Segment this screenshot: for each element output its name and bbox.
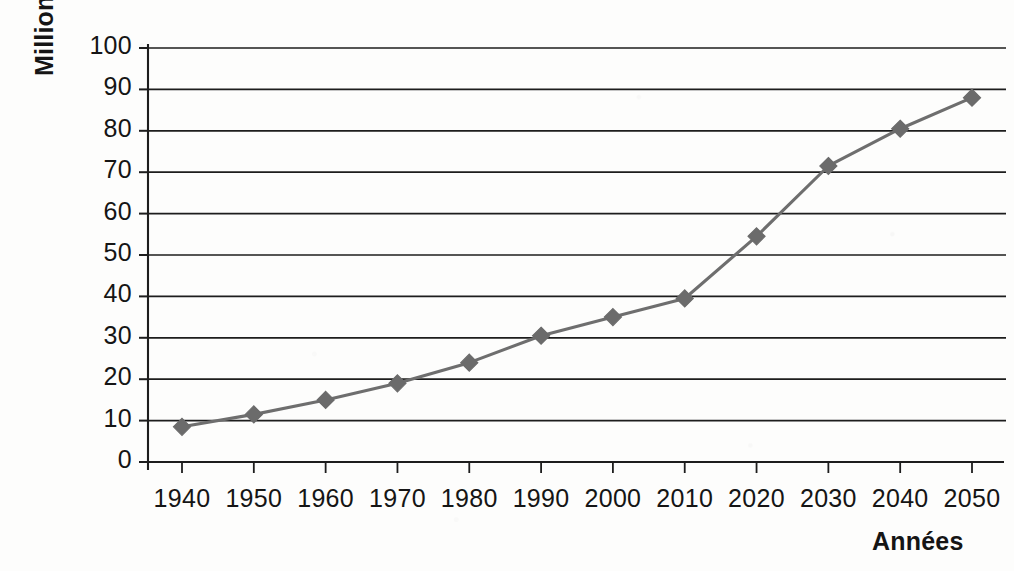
x-axis-tick-label: 2050 [926, 484, 1014, 513]
y-axis-tick-label: 40 [60, 279, 132, 308]
data-point-marker [533, 327, 550, 344]
y-axis-tick-label: 30 [60, 321, 132, 350]
y-axis-tick-label: 60 [60, 197, 132, 226]
gridlines [148, 48, 1006, 462]
data-point-marker [461, 354, 478, 371]
y-axis-tick-label: 90 [60, 72, 132, 101]
data-point-marker [317, 391, 334, 408]
y-axis-tick-label: 0 [60, 445, 132, 474]
series-line [182, 98, 972, 427]
data-point-markers [174, 89, 981, 435]
y-axis-tick-label: 100 [60, 31, 132, 60]
y-axis [139, 44, 148, 470]
y-axis-tick-label: 20 [60, 362, 132, 391]
chart-figure: Millions Années 1009080706050403020100 1… [0, 0, 1014, 571]
x-axis [182, 462, 972, 473]
data-point-marker [964, 89, 981, 106]
data-point-marker [389, 375, 406, 392]
data-series-line [182, 98, 972, 427]
y-axis-tick-label: 80 [60, 114, 132, 143]
data-point-marker [604, 309, 621, 326]
y-axis-tick-label: 50 [60, 238, 132, 267]
y-axis-tick-label: 10 [60, 404, 132, 433]
data-point-marker [892, 120, 909, 137]
y-axis-tick-label: 70 [60, 155, 132, 184]
